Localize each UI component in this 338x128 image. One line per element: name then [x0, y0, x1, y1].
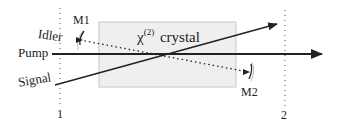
crystal-symbol: χ	[137, 29, 144, 45]
mirror-m2-label: M2	[241, 86, 258, 98]
mirror-m1-label: M1	[73, 14, 90, 26]
mirror-m1-icon	[76, 31, 84, 50]
crystal-order: (2)	[144, 27, 155, 37]
plane-1-label: 1	[57, 108, 63, 120]
pump-label: Pump	[18, 46, 48, 59]
crystal-label: χ(2) crystal	[137, 28, 200, 45]
opo-diagram: χ(2) crystal Idler Pump Signal M1 M2 1 2	[0, 0, 338, 128]
plane-2-label: 2	[281, 109, 287, 121]
idler-label: Idler	[37, 27, 63, 43]
crystal-word: crystal	[160, 29, 200, 45]
mirror-m2-icon	[243, 62, 254, 81]
diagram-canvas	[0, 0, 338, 128]
